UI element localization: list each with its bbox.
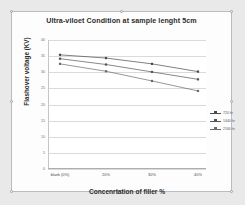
series-marker bbox=[151, 80, 153, 82]
y-tick-label: 25 bbox=[41, 86, 45, 90]
legend-swatch bbox=[210, 119, 221, 124]
y-tick-label: 30 bbox=[41, 70, 45, 74]
series-marker bbox=[105, 57, 107, 59]
x-tick-label: 20% bbox=[102, 172, 110, 177]
series-marker bbox=[197, 90, 199, 92]
y-tick-label: 0 bbox=[43, 167, 45, 171]
legend-item[interactable]: 1440 hr bbox=[210, 117, 235, 125]
y-tick-label: 5 bbox=[43, 151, 45, 155]
series-marker bbox=[197, 78, 199, 80]
resize-handle-top-left[interactable] bbox=[10, 10, 13, 13]
y-tick-label: 35 bbox=[41, 54, 45, 58]
chart-title: Ultra-viloet Condition at sample lenght … bbox=[12, 17, 231, 25]
legend-item[interactable]: 720 hr bbox=[210, 109, 235, 117]
legend-swatch bbox=[210, 127, 221, 132]
resize-handle-bottom-right[interactable] bbox=[230, 190, 233, 193]
series-marker bbox=[59, 58, 61, 60]
x-tick-label: blank (0%) bbox=[51, 172, 70, 177]
series-marker bbox=[197, 71, 199, 73]
resize-handle-top-right[interactable] bbox=[230, 10, 233, 13]
resize-handle-middle-right[interactable] bbox=[230, 100, 233, 103]
gridline bbox=[48, 169, 206, 170]
y-tick-label: 20 bbox=[41, 103, 45, 107]
legend-label: 2160 hr bbox=[223, 127, 235, 131]
series-marker bbox=[151, 71, 153, 73]
y-axis-title: Flashover voltage (KV) bbox=[23, 22, 30, 122]
series-line bbox=[60, 55, 198, 72]
series-marker bbox=[105, 63, 107, 65]
plot-area: 0510152025303540 blank (0%)20%30%40% bbox=[48, 40, 206, 169]
series-marker bbox=[105, 70, 107, 72]
y-tick-label: 15 bbox=[41, 119, 45, 123]
series-marker bbox=[59, 63, 61, 65]
x-axis-title: Concenrtation of filler % bbox=[48, 188, 206, 195]
data-series-lines bbox=[48, 40, 206, 169]
legend-item[interactable]: 2160 hr bbox=[210, 125, 235, 133]
legend-label: 1440 hr bbox=[223, 119, 235, 123]
chart-object-frame[interactable]: Ultra-viloet Condition at sample lenght … bbox=[11, 11, 232, 192]
y-tick-label: 10 bbox=[41, 135, 45, 139]
chart-legend: 720 hr1440 hr2160 hr bbox=[210, 109, 235, 133]
resize-handle-top-center[interactable] bbox=[120, 10, 123, 13]
legend-label: 720 hr bbox=[223, 111, 233, 115]
y-tick-label: 40 bbox=[41, 38, 45, 42]
x-tick-label: 40% bbox=[194, 172, 202, 177]
x-tick-label: 30% bbox=[148, 172, 156, 177]
resize-handle-bottom-left[interactable] bbox=[10, 190, 13, 193]
series-marker bbox=[59, 54, 61, 56]
legend-swatch bbox=[210, 111, 221, 116]
resize-handle-middle-left[interactable] bbox=[10, 100, 13, 103]
series-marker bbox=[151, 63, 153, 65]
